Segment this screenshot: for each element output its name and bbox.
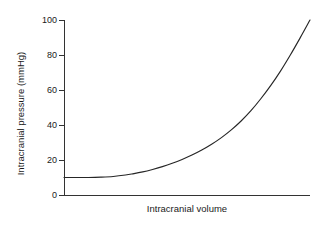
x-axis-title: Intracranial volume [64, 202, 310, 215]
y-tick-label-0: 0 [30, 191, 57, 200]
y-tick-label-60: 60 [30, 86, 57, 95]
y-tick-label-20: 20 [30, 156, 57, 165]
y-tick-label-100: 100 [30, 16, 57, 25]
y-axis-title: Intracranial pressure (mmHg) [14, 0, 28, 227]
chart-figure: 100 80 60 40 20 0 Intracranial pressure … [0, 0, 321, 227]
pressure-volume-curve [64, 20, 310, 178]
y-axis-ticks [59, 21, 65, 196]
y-tick-label-80: 80 [30, 51, 57, 60]
y-tick-label-40: 40 [30, 121, 57, 130]
